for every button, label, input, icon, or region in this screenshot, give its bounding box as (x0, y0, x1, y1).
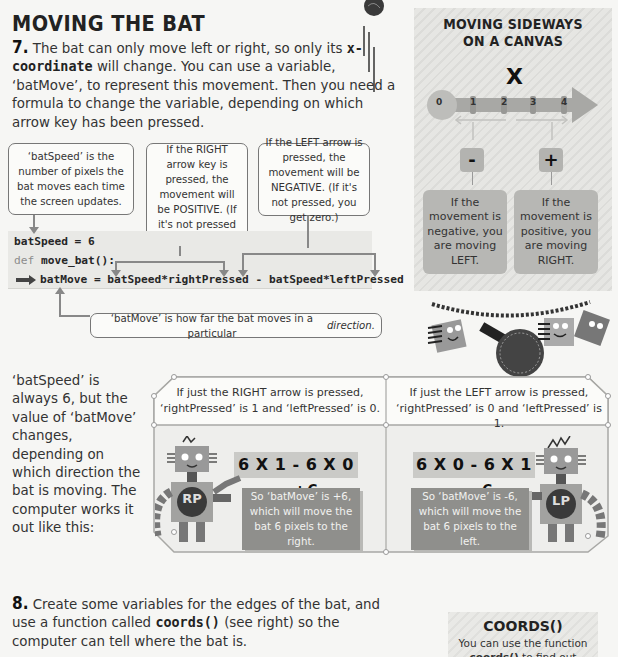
code-function-def: move_bat(): (34, 254, 115, 267)
robot-badge-rp: RP (178, 491, 206, 506)
tick-label-2: 2 (501, 97, 507, 107)
robot-head (175, 446, 209, 472)
coords-panel-title: COORDS() (448, 618, 598, 634)
axis-bar (444, 98, 574, 112)
callout-left-arrow: If the LEFT arrow is pressed, the moveme… (258, 143, 370, 216)
robot-left (428, 319, 467, 353)
side-panel-title-line-2: ON A CANVAS (424, 33, 602, 50)
tick-label-0: 0 (436, 97, 442, 107)
coords-panel-text: You can use the function coords() to fin… (448, 636, 598, 657)
robot-head (544, 448, 578, 474)
right-case-result: So ‘batMove’ is +6, which will move the … (242, 488, 360, 550)
robot-arm-right (213, 494, 231, 502)
step-7-number: 7. (12, 37, 28, 57)
right-case-condition: If just the RIGHT arrow is pressed, ‘rig… (158, 385, 382, 416)
coords-panel-line-1: You can use the function (448, 636, 598, 650)
callout-batmove: ‘batMove’ is how far the bat moves in a … (90, 313, 382, 338)
code-line-1: batSpeed = 6 (14, 235, 95, 248)
code-line-2: def move_bat(): (14, 254, 115, 267)
racket-head (496, 329, 544, 377)
x-axis-diagram (414, 80, 612, 140)
coords-panel-line-2-text: to find out (519, 651, 577, 657)
section-heading: MOVING THE BAT (12, 12, 205, 36)
tick-label-1: 1 (470, 97, 476, 107)
left-case-condition: If just the LEFT arrow is pressed, ‘righ… (390, 385, 608, 432)
coords-panel-code-term: coords() (470, 651, 519, 657)
robot-arm (582, 494, 601, 538)
robot-middle (538, 318, 574, 346)
positive-movement-info: If the movement is positive, you are mov… (514, 190, 598, 274)
code-keyword-def: def (14, 254, 34, 267)
negative-movement-info: If the movement is negative, you are mov… (423, 190, 507, 274)
robot-lp-illustration (530, 436, 612, 546)
explanation-paragraph: ‘batSpeed’ is always 6, but the value of… (12, 372, 147, 538)
robot-badge-lp: LP (547, 493, 575, 508)
step-8-paragraph: 8. Create some variables for the edges o… (12, 594, 392, 651)
callout-batspeed: ‘batSpeed’ is the number of pixels the b… (8, 143, 134, 215)
robot-pointing-hand-icon (212, 474, 242, 494)
axis-arrow-head (572, 87, 598, 123)
falling-ball-illustration (352, 0, 392, 100)
side-panel-title: MOVING SIDEWAYS ON A CANVAS (424, 16, 602, 50)
step-8-code-term: coords() (155, 615, 220, 630)
left-case-result: So ‘batMove’ is -6, which will move the … (411, 488, 529, 550)
step-7-text-before: The bat can only move left or right, so … (28, 41, 342, 56)
side-panel-title-line-1: MOVING SIDEWAYS (424, 16, 602, 33)
callout-batmove-text: ‘batMove’ is how far the bat moves in a … (97, 311, 327, 341)
coords-panel-line-2: coords() to find out (448, 650, 598, 657)
robot-antenna (183, 436, 195, 442)
robot-hair (548, 436, 570, 448)
step-8-number: 8. (12, 593, 28, 613)
robot-arm-left (530, 492, 542, 500)
minus-sign-box: - (460, 148, 484, 172)
step-7-paragraph: 7. The bat can only move left or right, … (12, 38, 397, 132)
robots-with-racket-illustration (420, 288, 610, 378)
callout-batmove-emphasis: direction. (327, 318, 375, 333)
left-case-equation: 6 X 0 - 6 X 1 = -6 (413, 452, 535, 478)
chain (432, 302, 590, 316)
tick-label-3: 3 (530, 97, 536, 107)
code-line-3: batMove = batSpeed*rightPressed - batSpe… (40, 273, 404, 286)
tick-label-4: 4 (561, 97, 567, 107)
ball-icon (364, 0, 384, 16)
robot-right (574, 310, 610, 346)
right-case-equation: 6 X 1 - 6 X 0 = +6 (234, 452, 358, 478)
robot-arm (156, 492, 171, 536)
plus-sign-box: + (539, 148, 563, 172)
